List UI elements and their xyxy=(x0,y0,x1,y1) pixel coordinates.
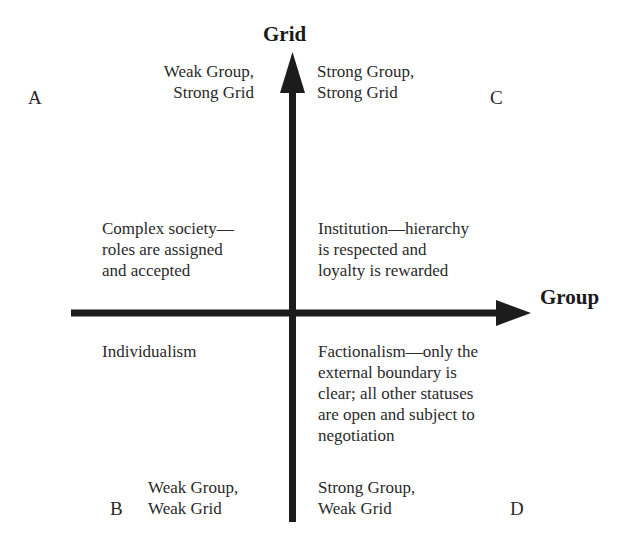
quadrant-b-description: Individualism xyxy=(102,341,196,362)
quadrant-d-title: Strong Group, Weak Grid xyxy=(318,477,415,519)
vertical-axis-line xyxy=(289,88,296,522)
vertical-axis-arrowhead-icon xyxy=(280,52,305,93)
quadrant-a-description: Complex society— roles are assigned and … xyxy=(102,218,234,281)
quadrant-d-description: Factionalism—only the external boundary … xyxy=(318,341,478,446)
quadrant-c-letter: C xyxy=(490,87,503,108)
quadrant-d-letter: D xyxy=(510,498,524,519)
quadrant-b-title: Weak Group, Weak Grid xyxy=(148,477,238,519)
quadrant-a-title: Weak Group, Strong Grid xyxy=(120,61,254,103)
quadrant-c-title: Strong Group, Strong Grid xyxy=(317,61,414,103)
quadrant-b-letter: B xyxy=(110,498,123,519)
quadrant-a-letter: A xyxy=(28,87,42,108)
vertical-axis-label: Grid xyxy=(263,22,306,47)
quadrant-c-description: Institution—hierarchy is respected and l… xyxy=(318,218,469,281)
horizontal-axis-arrowhead-icon xyxy=(496,300,531,326)
horizontal-axis-line xyxy=(71,310,501,317)
horizontal-axis-label: Group xyxy=(540,285,599,310)
